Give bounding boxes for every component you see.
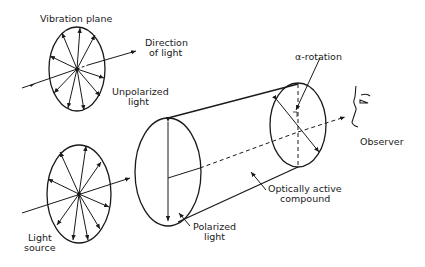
light-source-disc	[47, 145, 111, 243]
label-alpha-rotation: α-rotation	[295, 52, 342, 62]
alpha-pointer	[296, 58, 320, 110]
observer-face-icon	[352, 86, 370, 127]
optical-rotation-diagram: Vibration plane Direction of light Unpol…	[0, 0, 425, 267]
label-polarized-line2: light	[204, 232, 225, 242]
label-compound-line2: compound	[280, 194, 330, 204]
label-vibration-plane: Vibration plane	[40, 14, 112, 24]
source-beam	[22, 178, 130, 213]
label-light-source-line2: source	[24, 243, 56, 253]
sample-tube	[135, 83, 345, 226]
label-unpolarized-line2: light	[128, 97, 149, 107]
beam-to-observer	[298, 117, 345, 132]
label-observer: Observer	[360, 137, 404, 147]
label-direction-line2: of light	[149, 48, 182, 58]
